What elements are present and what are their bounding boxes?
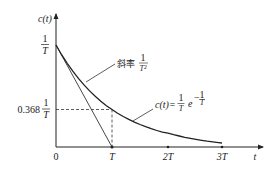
curve-annotation-lhs: c(t)= — [155, 99, 176, 111]
y-tick-mid-denominator: T — [43, 109, 50, 120]
x-tick-label-3T: 3T — [216, 151, 229, 162]
curve-annotation-numerator: 1 — [179, 92, 184, 103]
x-axis-label: t — [254, 151, 257, 162]
slope-annotation-prefix: 斜率 — [117, 58, 135, 69]
curve-annotation-denominator: T — [179, 104, 184, 113]
x-tick-label-T: T — [109, 151, 116, 162]
y-tick-mid-coefficient: 0.368 — [18, 104, 41, 115]
slope-annotation-numerator: 1 — [141, 52, 146, 63]
curve-leader-line — [133, 109, 153, 121]
tick-dot-3T — [221, 146, 224, 149]
x-tick-label-2T: 2T — [163, 151, 175, 162]
impulse-response-diagram: c(t) 1 T 0.368 1 T 0 T 2T 3T t 斜率 1 T² c… — [0, 0, 275, 169]
origin-label: 0 — [54, 151, 59, 162]
slope-leader-line — [86, 64, 115, 82]
y-tick-top-denominator: T — [42, 45, 49, 56]
tick-dot-T — [111, 146, 114, 149]
y-tick-mid-numerator: 1 — [44, 97, 49, 108]
y-axis-label: c(t) — [38, 13, 53, 25]
y-tick-top-numerator: 1 — [43, 33, 48, 44]
tangent-line — [56, 45, 112, 147]
curve-annotation-base: e — [188, 98, 193, 109]
curve-annotation-exp-denominator: T — [200, 98, 205, 107]
tick-dot-2T — [167, 146, 170, 149]
slope-annotation-denominator: T² — [140, 64, 147, 73]
